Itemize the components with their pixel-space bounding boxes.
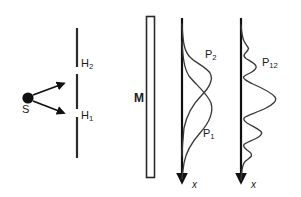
label-slit-h2: H2 <box>81 58 93 69</box>
label-slit-h2-text: H <box>81 57 89 69</box>
source-point <box>22 92 33 103</box>
label-curve-p1: P1 <box>203 128 215 139</box>
label-slit-h1: H1 <box>81 110 93 121</box>
label-slit-h2-sub: 2 <box>89 62 93 71</box>
label-curve-p2-sub: 2 <box>212 53 216 62</box>
label-curve-p12: P12 <box>262 57 278 68</box>
double-slit-diagram: S H2 H1 M P2 P1 P12 x x <box>0 0 301 197</box>
label-curve-p2: P2 <box>205 49 217 60</box>
label-source: S <box>22 104 29 115</box>
label-curve-p12-sub: 12 <box>269 61 278 70</box>
ray-upper-arrow <box>33 84 64 96</box>
curve-p12 <box>241 25 276 180</box>
label-slit-h1-sub: 1 <box>89 114 93 123</box>
diagram-canvas <box>0 0 301 197</box>
label-axis-x-left: x <box>192 180 197 190</box>
label-curve-p1-sub: 1 <box>210 132 214 141</box>
label-screen-m: M <box>134 92 144 104</box>
label-slit-h1-text: H <box>81 109 89 121</box>
ray-lower-arrow <box>33 101 64 113</box>
label-axis-x-right: x <box>251 180 256 190</box>
screen-wall-rect <box>147 17 155 178</box>
